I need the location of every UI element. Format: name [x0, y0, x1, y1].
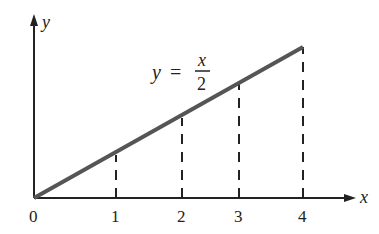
x-axis-label: x [359, 187, 368, 207]
svg-text:=: = [170, 61, 181, 83]
equation-label: y = x 2 [150, 50, 210, 94]
x-tick-0: 0 [29, 207, 38, 226]
x-tick-1: 1 [111, 207, 120, 226]
dashed-verticals [116, 47, 303, 198]
graph: y x 0 1 2 3 4 y = x 2 [0, 0, 379, 234]
x-tick-3: 3 [234, 207, 243, 226]
line-y-equals-x-over-2 [34, 47, 303, 198]
x-tick-4: 4 [298, 207, 307, 226]
svg-text:2: 2 [197, 74, 206, 94]
y-axis-label: y [40, 12, 50, 32]
x-axis-arrow-icon [344, 194, 356, 202]
y-axis-arrow-icon [30, 14, 38, 26]
x-tick-2: 2 [177, 207, 186, 226]
svg-text:y: y [150, 61, 161, 84]
tick-marks [116, 190, 303, 198]
svg-text:x: x [197, 50, 206, 70]
